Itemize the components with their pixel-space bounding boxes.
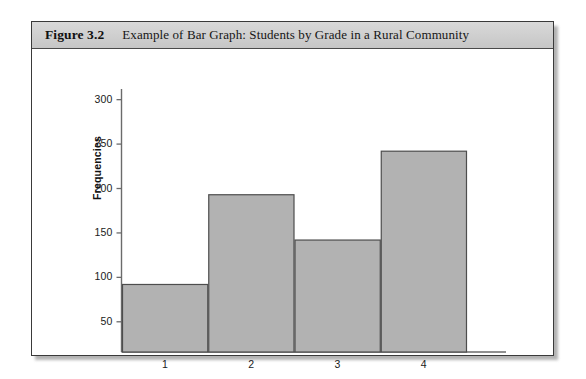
y-axis-tick-label: 100 xyxy=(73,270,113,282)
x-axis-category-label: 2 xyxy=(231,358,271,370)
y-axis-tick-label: 250 xyxy=(73,137,113,149)
bar-1 xyxy=(123,284,208,352)
y-axis-tick-label: 50 xyxy=(73,315,113,327)
bar-4 xyxy=(381,151,466,352)
figure-number-label: Figure 3.2 xyxy=(45,27,104,43)
y-axis-tick-label: 300 xyxy=(73,93,113,105)
bars-group xyxy=(123,151,467,352)
screenshot-root: Figure 3.2 Example of Bar Graph: Student… xyxy=(0,0,586,379)
y-axis-tick-marks xyxy=(117,100,122,322)
figure-caption-text: Example of Bar Graph: Students by Grade … xyxy=(122,27,469,43)
y-axis-tick-label: 200 xyxy=(73,182,113,194)
chart-plot-area: Frequencies 50100150200250300 1234 xyxy=(32,49,553,355)
bar-3 xyxy=(295,240,380,352)
figure-container: Figure 3.2 Example of Bar Graph: Student… xyxy=(31,21,554,356)
x-axis-category-label: 1 xyxy=(145,358,185,370)
x-axis-category-label: 4 xyxy=(404,358,444,370)
x-axis-category-label: 3 xyxy=(318,358,358,370)
y-axis-tick-label: 150 xyxy=(73,226,113,238)
figure-caption-bar: Figure 3.2 Example of Bar Graph: Student… xyxy=(32,22,553,49)
bar-2 xyxy=(209,195,294,352)
